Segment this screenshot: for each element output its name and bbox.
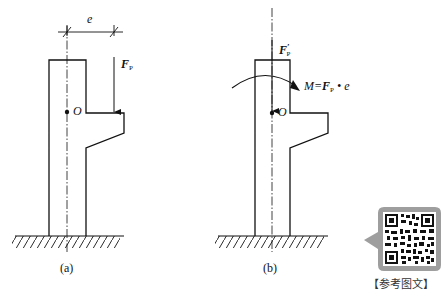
dimension-label-e: e [87,12,92,27]
moment-force: F [322,79,330,93]
point-label-o-b: O [278,105,287,120]
point-label-o-a: O [73,104,82,119]
point-o-b [270,111,274,115]
point-o-a [65,110,69,114]
force-label-a: FP [121,57,133,72]
figure-b [215,8,328,252]
qr-caption[interactable]: 【参考图文】 [368,275,434,291]
ground-a [12,236,124,248]
force-label-b: F′P [279,42,290,58]
force-symbol: F [279,43,287,57]
force-symbol: F [121,57,129,71]
caption-a: (a) [60,261,73,276]
moment-label: M=FP • e [304,79,350,94]
moment-arrowhead [290,80,300,91]
figure-a [12,25,124,252]
caption-b: (b) [263,261,277,276]
moment-suffix: • e [334,79,350,93]
ground-b [215,236,328,248]
force-subscript: P [287,50,291,58]
qr-callout [364,207,441,271]
moment-arc [232,75,296,88]
force-subscript: P [129,64,133,72]
column-outline-a [49,60,124,236]
diagram-canvas [0,0,444,292]
moment-prefix: M= [304,79,322,93]
